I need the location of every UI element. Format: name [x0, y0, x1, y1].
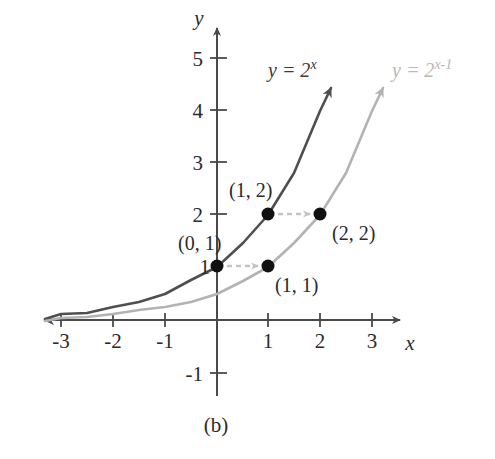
x-axis-name: x [404, 331, 415, 355]
x-tick-label-neg2: -2 [104, 329, 122, 353]
point-label-2-2: (2, 2) [332, 222, 375, 245]
y-tick-labels: 5 4 3 2 1 -1 [186, 47, 211, 386]
x-tick-label-neg3: -3 [52, 329, 70, 353]
x-tick-label-neg1: -1 [156, 329, 174, 353]
y-tick-label-1: 1 [200, 255, 211, 279]
point-label-0-1: (0, 1) [178, 232, 221, 255]
data-points-group [211, 208, 327, 273]
point-0-1-marker [211, 260, 224, 273]
curve2-label-exponent: x-1 [433, 57, 452, 72]
point-2-2-marker [314, 208, 327, 221]
point-1-2-marker [262, 208, 275, 221]
curve-y-equals-2-to-x-minus-1 [45, 88, 383, 321]
figure-container: -3 -2 -1 1 2 3 5 4 3 2 1 -1 x y y = 2x y [0, 0, 495, 459]
y-tick-label-4: 4 [193, 99, 204, 123]
exponential-graph-svg: -3 -2 -1 1 2 3 5 4 3 2 1 -1 x y y = 2x y [0, 0, 495, 459]
y-tick-label-2: 2 [193, 203, 204, 227]
point-1-1-marker [262, 260, 275, 273]
svg-text:y = 2x-1: y = 2x-1 [390, 57, 452, 82]
curves-group [45, 88, 383, 321]
y-tick-label-5: 5 [193, 47, 204, 71]
y-axis-ticks [210, 58, 227, 373]
y-tick-label-3: 3 [193, 151, 204, 175]
curve2-label-base: y = 2 [390, 59, 434, 82]
axes-group [44, 28, 400, 396]
y-tick-label-neg1: -1 [186, 362, 204, 386]
x-tick-label-3: 3 [367, 329, 378, 353]
x-tick-labels: -3 -2 -1 1 2 3 [52, 329, 377, 353]
curve1-label-base: y = 2 [266, 59, 310, 82]
curve-label-light: y = 2x-1 [390, 57, 452, 82]
point-label-1-2: (1, 2) [229, 179, 272, 202]
x-tick-label-1: 1 [263, 329, 274, 353]
curve1-label-exponent: x [309, 57, 317, 72]
point-label-1-1: (1, 1) [275, 274, 318, 297]
x-tick-label-2: 2 [315, 329, 326, 353]
curve-label-dark: y = 2x [266, 57, 317, 82]
figure-caption: (b) [204, 413, 229, 437]
y-axis-name: y [192, 6, 204, 30]
svg-text:y = 2x: y = 2x [266, 57, 317, 82]
